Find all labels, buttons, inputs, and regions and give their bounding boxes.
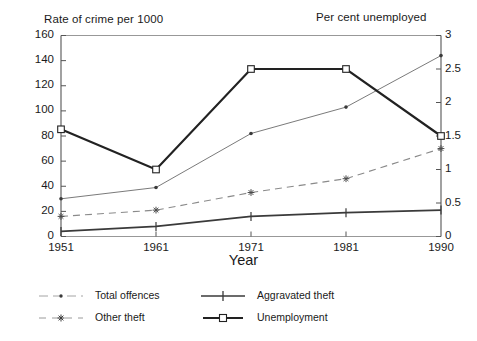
left-tick-140: 140 [20,53,54,65]
dot-line-icon [33,288,89,304]
series-aggravated-theft [61,206,441,236]
x-tick-1981: 1981 [316,241,376,253]
x-tick-1971: 1971 [221,241,281,253]
x-tick-1961: 1961 [126,241,186,253]
left-tick-0: 0 [20,229,54,241]
left-tick-40: 40 [20,179,54,191]
x-tick-1990: 1990 [411,241,471,253]
chart-legend: Total offences Other theft [0,286,477,336]
series-total-offences [59,54,443,201]
x-axis-title: Year [0,252,477,268]
right-tick-2: 2 [445,95,477,107]
legend-label-total-offences: Total offences [95,289,160,301]
square-solid-line-icon [195,310,251,326]
left-tick-120: 120 [20,78,54,90]
right-tick-0: 0 [445,229,477,241]
left-tick-80: 80 [20,129,54,141]
plus-solid-line-icon [195,288,251,304]
asterisk-dashed-line-icon [33,310,89,326]
right-tick-1.5: 1.5 [445,129,477,141]
chart-figure: Rate of crime per 1000 Per cent unemploy… [0,0,477,341]
series-other-theft [58,145,445,220]
legend-label-aggravated-theft: Aggravated theft [257,289,334,301]
left-tick-160: 160 [20,28,54,40]
x-axis-title-text: Year [229,252,258,268]
right-tick-1: 1 [445,162,477,174]
left-tick-20: 20 [20,204,54,216]
right-tick-2.5: 2.5 [445,62,477,74]
right-tick-0.5: 0.5 [445,196,477,208]
legend-label-unemployment: Unemployment [257,311,328,323]
legend-label-other-theft: Other theft [95,311,145,323]
x-tick-1951: 1951 [31,241,91,253]
left-tick-60: 60 [20,154,54,166]
series-unemployment [58,66,445,173]
right-tick-3: 3 [445,28,477,40]
left-tick-100: 100 [20,103,54,115]
